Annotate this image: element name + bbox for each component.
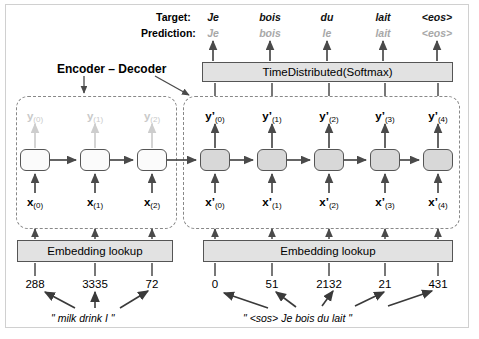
decoder-cell-1 (257, 149, 287, 171)
encoder-cell-0 (20, 149, 50, 171)
decoder-output-label-0: y’(0) (205, 110, 224, 124)
encoder-input-label-2: x(2) (144, 196, 160, 210)
decoder-cell-3 (370, 149, 400, 171)
encoder-token-id-2: 72 (146, 278, 159, 290)
decoder-output-label-3: y’(3) (375, 110, 394, 124)
decoder-token-id-2: 2132 (316, 278, 342, 290)
decoder-output-label-1: y’(1) (262, 110, 281, 124)
decoder-input-label-1: x’(1) (262, 196, 281, 210)
decoder-input-label-2: x’(2) (319, 196, 338, 210)
embedding-lookup-encoder: Embedding lookup (17, 240, 173, 262)
decoder-input-label-0: x’(0) (205, 196, 224, 210)
embedding-lookup-decoder: Embedding lookup (203, 240, 453, 262)
encoder-decoder-heading: Encoder – Decoder (57, 62, 166, 76)
target-token-0: Je (207, 11, 219, 23)
encoder-cell-2 (137, 149, 167, 171)
target-token-3: lait (375, 11, 390, 23)
prediction-token-4: <eos> (422, 27, 452, 39)
decoder-token-id-1: 51 (266, 278, 279, 290)
encoder-token-id-0: 288 (25, 278, 44, 290)
encoder-token-id-1: 3335 (82, 278, 108, 290)
target-token-2: du (321, 11, 334, 23)
decoder-output-label-4: y’(4) (428, 110, 447, 124)
decoder-token-id-4: 431 (428, 278, 447, 290)
target-token-4: <eos> (422, 11, 452, 23)
decoder-input-label-3: x’(3) (375, 196, 394, 210)
target-token-1: bois (259, 11, 281, 23)
timedistributed-softmax-box: TimeDistributed(Softmax) (202, 62, 453, 82)
decoder-cell-2 (314, 149, 344, 171)
encoder-output-label-2: y(2) (144, 110, 160, 124)
prediction-token-0: Je (207, 27, 219, 39)
decoder-token-id-0: 0 (212, 278, 218, 290)
encoder-input-label-1: x(1) (87, 196, 103, 210)
encoder-output-label-0: y(0) (27, 110, 43, 124)
decoder-source-sentence: " <sos> Je bois du lait " (243, 312, 352, 324)
encoder-source-sentence: " milk drink I " (51, 312, 114, 324)
decoder-cell-4 (423, 149, 453, 171)
target-row-label: Target: (156, 11, 191, 23)
prediction-token-1: bois (259, 27, 281, 39)
decoder-input-label-4: x’(4) (428, 196, 447, 210)
encoder-output-label-1: y(1) (87, 110, 103, 124)
prediction-token-2: le (323, 27, 332, 39)
decoder-token-id-3: 21 (379, 278, 392, 290)
prediction-row-label: Prediction: (141, 27, 196, 39)
decoder-cell-0 (200, 149, 230, 171)
encoder-input-label-0: x(0) (27, 196, 43, 210)
decoder-output-label-2: y’(2) (319, 110, 338, 124)
encoder-cell-1 (80, 149, 110, 171)
figure-canvas: Target: Prediction: Je bois du lait <eos… (0, 0, 479, 339)
prediction-token-3: lait (375, 27, 390, 39)
